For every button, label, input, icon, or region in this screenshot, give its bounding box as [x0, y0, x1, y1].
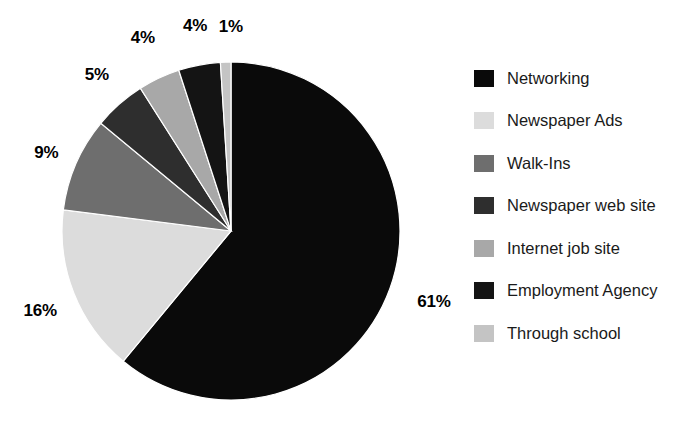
pie-chart-figure: 61%16%9%5%4%4%1% NetworkingNewspaper Ads…: [0, 0, 690, 425]
pie-slice-group: [62, 62, 400, 400]
legend-swatch-icon: [474, 112, 494, 129]
legend-item-label: Through school: [507, 325, 621, 342]
legend-swatch-icon: [474, 240, 494, 257]
legend-item-label: Employment Agency: [507, 282, 657, 299]
legend-item[interactable]: Internet job site: [474, 234, 688, 262]
legend-item[interactable]: Newspaper Ads: [474, 107, 688, 135]
pie-slice-value-label: 16%: [23, 302, 56, 319]
pie-slice-value-label: 5%: [85, 66, 109, 83]
legend-swatch-icon: [474, 282, 494, 299]
pie-slice-value-label: 1%: [219, 18, 243, 35]
pie-slice-value-label: 4%: [183, 17, 207, 34]
pie-slice-value-label: 4%: [131, 29, 155, 46]
pie-slice-value-label: 9%: [34, 144, 58, 161]
legend-swatch-icon: [474, 70, 494, 87]
pie-plot-area: 61%16%9%5%4%4%1%: [0, 0, 466, 425]
legend: NetworkingNewspaper AdsWalk-InsNewspaper…: [474, 64, 688, 362]
legend-swatch-icon: [474, 155, 494, 172]
legend-item[interactable]: Employment Agency: [474, 277, 688, 305]
legend-item[interactable]: Walk-Ins: [474, 149, 688, 177]
legend-item-label: Walk-Ins: [507, 155, 571, 172]
legend-item[interactable]: Newspaper web site: [474, 192, 688, 220]
legend-item-label: Newspaper web site: [507, 197, 656, 214]
legend-item[interactable]: Networking: [474, 64, 688, 92]
legend-item-label: Internet job site: [507, 240, 620, 257]
legend-item-label: Networking: [507, 70, 590, 87]
legend-item[interactable]: Through school: [474, 319, 688, 347]
legend-swatch-icon: [474, 197, 494, 214]
legend-swatch-icon: [474, 325, 494, 342]
pie-slice-value-label: 61%: [417, 293, 450, 310]
pie-svg: [0, 0, 466, 425]
legend-item-label: Newspaper Ads: [507, 112, 623, 129]
